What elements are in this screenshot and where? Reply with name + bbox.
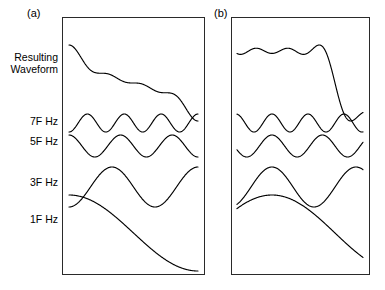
panel-a-harmonic-3-curve: [69, 167, 198, 207]
panel-b-resulting-waveform: [237, 45, 363, 121]
row-label-harmonic-1: 1F Hz: [0, 214, 58, 226]
panel-b: [231, 17, 370, 275]
panel-b-harmonic-5-curve: [237, 135, 363, 157]
panel-b-waveforms: [232, 18, 369, 274]
row-label-harmonic-3: 3F Hz: [0, 177, 58, 189]
row-label-resulting-line2: Waveform: [0, 64, 58, 76]
panel-a-harmonic-1-curve: [69, 195, 198, 271]
row-label-harmonic-7: 7F Hz: [0, 116, 58, 128]
panel-b-harmonic-3-curve: [237, 167, 363, 207]
panel-a-harmonic-7-curve: [69, 114, 198, 132]
waveform-synthesis-figure: (a) (b) Resulting Waveform 7F Hz 5F Hz 3…: [0, 0, 385, 290]
panel-a-waveforms: [63, 18, 204, 274]
panel-b-harmonic-1-curve: [237, 195, 363, 257]
row-label-harmonic-5: 5F Hz: [0, 136, 58, 148]
panel-a-harmonic-5-curve: [69, 135, 198, 157]
row-label-resulting-line1: Resulting: [0, 52, 58, 64]
panel-label-b: (b): [214, 7, 227, 19]
panel-label-a: (a): [27, 7, 40, 19]
panel-a: [62, 17, 205, 275]
row-label-resulting-waveform: Resulting Waveform: [0, 52, 58, 75]
panel-a-resulting-waveform: [69, 45, 198, 121]
panel-b-harmonic-7-curve: [237, 114, 363, 132]
